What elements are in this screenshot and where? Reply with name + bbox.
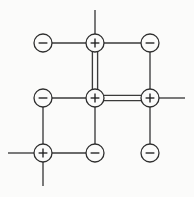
charge-lattice-diagram: −+−−+++−− bbox=[0, 0, 194, 197]
node-n-top-right: − bbox=[141, 34, 159, 52]
node-n-bottom-left: + bbox=[34, 144, 52, 162]
node-n-bottom-center: − bbox=[86, 144, 104, 162]
node-n-top-left: − bbox=[34, 34, 52, 52]
node-n-top-center: + bbox=[86, 34, 104, 52]
node-n-mid-left: − bbox=[34, 89, 52, 107]
node-n-mid-right: + bbox=[141, 89, 159, 107]
node-n-bottom-right: − bbox=[141, 144, 159, 162]
lattice-svg: −+−−+++−− bbox=[0, 0, 194, 197]
node-n-mid-center: + bbox=[86, 89, 104, 107]
